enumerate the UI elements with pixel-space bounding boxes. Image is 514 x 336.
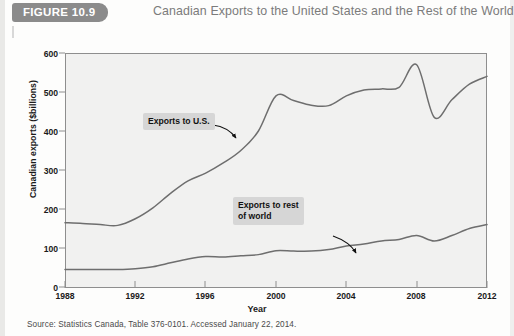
x-tick-marks bbox=[65, 281, 487, 288]
callout-exports-to-rest-of-world: Exports to rest of world bbox=[233, 197, 304, 225]
source-note: Source: Statistics Canada, Table 376-010… bbox=[27, 320, 296, 329]
callout-arrow-us bbox=[213, 125, 236, 138]
callout-line-2: of world bbox=[238, 211, 299, 222]
plot-svg bbox=[0, 30, 514, 302]
figure-number-badge: FIGURE 10.9 bbox=[12, 3, 108, 22]
figure-container: FIGURE 10.9 Canadian Exports to the Unit… bbox=[0, 0, 514, 336]
callout-arrow-rest-of-world bbox=[333, 236, 356, 253]
callout-line-1: Exports to rest bbox=[238, 200, 299, 211]
x-axis-label: Year bbox=[0, 304, 514, 314]
figure-header: FIGURE 10.9 Canadian Exports to the Unit… bbox=[0, 0, 514, 28]
chart-area: Canadian exports ($billions) 600 500 400… bbox=[0, 30, 514, 302]
y-tick-marks bbox=[59, 53, 65, 287]
series-line-exports-to-rest-of-world bbox=[65, 225, 487, 270]
callout-exports-to-us: Exports to U.S. bbox=[143, 113, 215, 130]
figure-title: Canadian Exports to the United States an… bbox=[153, 4, 514, 18]
